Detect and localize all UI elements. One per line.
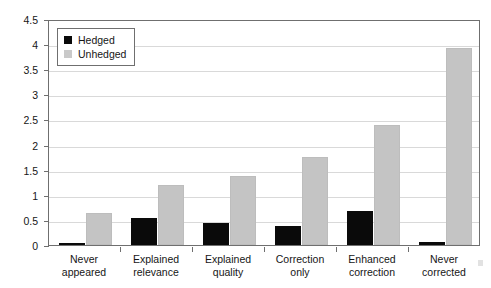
- bar-chart-figure: 00.511.522.533.544.5 Never appearedExpla…: [0, 0, 491, 288]
- y-tick-label: 4.5: [0, 15, 38, 25]
- bar-hedged: [275, 226, 301, 245]
- y-tick-mark: [44, 95, 48, 96]
- legend-item-unhedged: Unhedged: [64, 47, 126, 61]
- bar-unhedged: [302, 157, 328, 245]
- scan-artifact: [478, 260, 483, 266]
- bar-hedged: [59, 243, 85, 245]
- y-tick-label: 2.5: [0, 115, 38, 125]
- y-tick-label: 0: [0, 241, 38, 251]
- x-tick-mark: [408, 247, 409, 252]
- y-tick-label: 1.5: [0, 166, 38, 176]
- x-category-label: Correction only: [264, 253, 336, 279]
- x-category-label: Explained quality: [192, 253, 264, 279]
- gridline: [49, 121, 479, 122]
- gridline: [49, 222, 479, 223]
- y-tick-mark: [44, 196, 48, 197]
- y-tick-label: 4: [0, 40, 38, 50]
- x-tick-mark: [336, 247, 337, 252]
- gridline: [49, 96, 479, 97]
- bar-unhedged: [446, 48, 472, 245]
- legend-label: Unhedged: [78, 48, 126, 60]
- bar-hedged: [419, 242, 445, 246]
- y-tick-label: 0.5: [0, 216, 38, 226]
- x-category-label: Never appeared: [48, 253, 120, 279]
- y-tick-mark: [44, 70, 48, 71]
- x-category-label: Enhanced correction: [336, 253, 408, 279]
- bar-hedged: [131, 218, 157, 245]
- legend-label: Hedged: [78, 34, 115, 46]
- gridline: [49, 172, 479, 173]
- y-tick-mark: [44, 146, 48, 147]
- legend-item-hedged: Hedged: [64, 33, 126, 47]
- y-tick-label: 1: [0, 191, 38, 201]
- chart-legend: HedgedUnhedged: [57, 28, 135, 66]
- bar-hedged: [203, 223, 229, 245]
- legend-swatch-unhedged-icon: [64, 50, 72, 58]
- x-category-label: Explained relevance: [120, 253, 192, 279]
- y-tick-mark: [44, 45, 48, 46]
- bar-unhedged: [86, 213, 112, 245]
- y-tick-mark: [44, 246, 48, 247]
- x-category-label: Never corrected: [408, 253, 480, 279]
- y-tick-label: 2: [0, 141, 38, 151]
- bar-hedged: [347, 211, 373, 245]
- bar-unhedged: [158, 185, 184, 245]
- y-tick-label: 3: [0, 90, 38, 100]
- gridline: [49, 197, 479, 198]
- bar-unhedged: [230, 176, 256, 245]
- gridline: [49, 71, 479, 72]
- y-axis-ticks: 00.511.522.533.544.5: [0, 0, 48, 288]
- x-tick-mark: [120, 247, 121, 252]
- gridline: [49, 147, 479, 148]
- y-tick-mark: [44, 221, 48, 222]
- y-tick-mark: [44, 20, 48, 21]
- legend-swatch-hedged-icon: [64, 36, 72, 44]
- y-tick-mark: [44, 171, 48, 172]
- x-tick-mark: [264, 247, 265, 252]
- y-tick-mark: [44, 120, 48, 121]
- y-tick-label: 3.5: [0, 65, 38, 75]
- bar-unhedged: [374, 125, 400, 245]
- x-tick-mark: [192, 247, 193, 252]
